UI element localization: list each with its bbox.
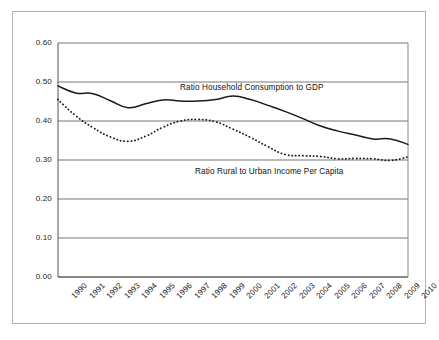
chart-figure: 0.600.500.400.300.200.100.00 19901991199… (0, 0, 439, 340)
series-label-household-consumption: Ratio Household Consumption to GDP (180, 83, 324, 92)
y-tick-label: 0.10 (24, 233, 52, 242)
y-tick-label: 0.30 (24, 155, 52, 164)
y-tick-label: 0.00 (24, 272, 52, 281)
data-series-group (58, 86, 408, 161)
y-tick-label: 0.40 (24, 116, 52, 125)
series-line-household-consumption (58, 86, 408, 144)
y-tick-label: 0.60 (24, 38, 52, 47)
series-line-rural-urban-income (58, 100, 408, 161)
y-tick-label: 0.20 (24, 194, 52, 203)
series-label-rural-urban-income: Ratio Rural to Urban Income Per Capita (195, 167, 344, 176)
gridlines (58, 43, 408, 277)
y-tick-label: 0.50 (24, 77, 52, 86)
